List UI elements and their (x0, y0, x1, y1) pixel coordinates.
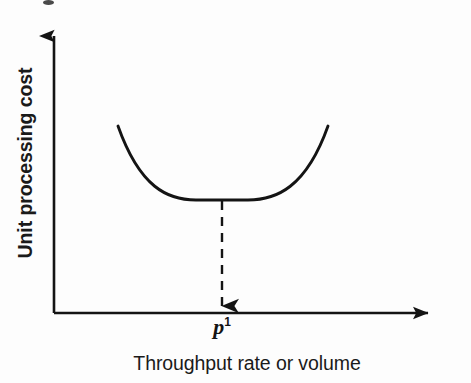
optimum-point-superscript: 1 (224, 315, 231, 329)
y-axis-label: Unit processing cost (10, 33, 40, 293)
x-axis-label: Throughput rate or volume (54, 352, 440, 375)
figure-container: Unit processing cost Throughput rate or … (0, 0, 471, 383)
optimum-point-label: p1 (198, 316, 246, 338)
optimum-point-symbol: p (213, 314, 224, 339)
unit-cost-curve (118, 126, 328, 200)
